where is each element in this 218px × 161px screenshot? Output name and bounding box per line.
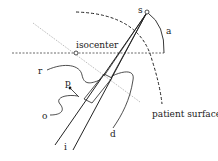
source-marker <box>145 10 149 14</box>
offset-leader <box>50 95 78 115</box>
label-depth: d <box>110 129 116 139</box>
label-ray: r <box>38 66 43 76</box>
label-point: p <box>65 78 71 88</box>
angle-arc <box>148 13 164 53</box>
label-source: s <box>138 5 143 15</box>
label-angle: a <box>166 26 172 36</box>
label-isocenter: isocenter <box>76 40 119 50</box>
patient-surface-arc <box>76 12 162 104</box>
label-patient-surface: patient surface <box>152 109 218 119</box>
depth-leader <box>112 72 133 128</box>
label-incident: i <box>64 142 67 152</box>
beam-geometry-diagram: s a isocenter r p o i d patient surface <box>0 0 218 161</box>
isocenter-marker <box>74 51 78 55</box>
label-offset: o <box>42 111 47 121</box>
diagonal-axis-line <box>33 23 140 102</box>
ray-leader <box>47 65 100 82</box>
